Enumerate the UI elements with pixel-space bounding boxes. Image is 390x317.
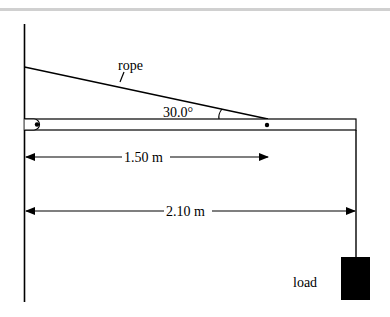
beam-diagram: rope 30.0° 1.50 m 2.10 m load bbox=[0, 0, 390, 317]
dim-1-50-label: 1.50 m bbox=[124, 150, 163, 165]
load-block bbox=[341, 257, 370, 300]
load-label: load bbox=[293, 275, 317, 290]
hinge-pin bbox=[35, 122, 39, 126]
angle-label: 30.0° bbox=[163, 105, 193, 120]
rope-label: rope bbox=[118, 58, 143, 73]
rope-attachment-pin bbox=[265, 123, 269, 127]
rope-label-pointer bbox=[120, 72, 124, 82]
beam bbox=[25, 119, 357, 130]
angle-arc bbox=[219, 109, 222, 119]
dim-2-10-label: 2.10 m bbox=[166, 204, 205, 219]
rope-line bbox=[25, 67, 269, 119]
